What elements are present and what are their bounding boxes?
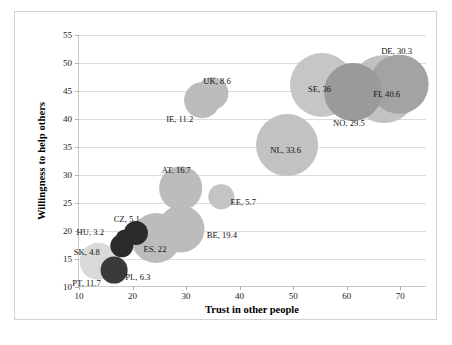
y-tick-mark-45 bbox=[75, 91, 79, 92]
data-label-no: NO, 29.5 bbox=[333, 119, 365, 128]
y-tick-mark-40 bbox=[75, 119, 79, 120]
y-tick-label-20: 20 bbox=[63, 226, 72, 236]
x-tick-label-70: 70 bbox=[396, 291, 405, 301]
y-tick-mark-55 bbox=[75, 35, 79, 36]
data-label-pl: PL, 6.3 bbox=[125, 273, 150, 282]
data-label-ee: EE, 5.7 bbox=[230, 198, 256, 207]
x-tick-mark-30 bbox=[186, 286, 187, 290]
x-tick-mark-50 bbox=[293, 286, 294, 290]
y-axis-title: Willingness to help others bbox=[33, 35, 49, 287]
y-tick-mark-35 bbox=[75, 147, 79, 148]
data-label-ie: IE, 11.2 bbox=[166, 115, 193, 124]
data-label-es: ES, 22 bbox=[144, 245, 167, 254]
x-tick-mark-40 bbox=[240, 286, 241, 290]
x-tick-label-30: 30 bbox=[182, 291, 191, 301]
gridline-y-30 bbox=[79, 175, 426, 176]
data-label-se: SE, 36 bbox=[308, 85, 331, 94]
y-tick-label-30: 30 bbox=[63, 170, 72, 180]
x-tick-label-10: 10 bbox=[75, 291, 84, 301]
x-tick-label-60: 60 bbox=[342, 291, 351, 301]
y-tick-label-45: 45 bbox=[63, 86, 72, 96]
plot-area: 10152025303540455055 10203040506070 PT, … bbox=[78, 35, 426, 287]
y-tick-mark-30 bbox=[75, 175, 79, 176]
data-label-nl: NL, 33.6 bbox=[270, 146, 301, 155]
gridline-y-35 bbox=[79, 147, 426, 148]
y-tick-label-15: 15 bbox=[63, 254, 72, 264]
x-tick-mark-20 bbox=[133, 286, 134, 290]
bubble-pl[interactable] bbox=[101, 257, 128, 284]
data-label-at: AT, 16.7 bbox=[162, 166, 191, 175]
y-tick-label-10: 10 bbox=[63, 282, 72, 292]
gridline-y-55 bbox=[79, 35, 426, 36]
data-label-de: DE, 30.3 bbox=[381, 47, 412, 56]
x-tick-label-20: 20 bbox=[128, 291, 137, 301]
y-tick-label-35: 35 bbox=[63, 142, 72, 152]
y-tick-label-50: 50 bbox=[63, 58, 72, 68]
y-tick-label-55: 55 bbox=[63, 30, 72, 40]
data-label-uk: UK, 8.6 bbox=[203, 77, 230, 86]
y-tick-mark-25 bbox=[75, 203, 79, 204]
x-tick-label-50: 50 bbox=[289, 291, 298, 301]
x-axis-title: Trust in other people bbox=[78, 304, 426, 315]
y-tick-mark-15 bbox=[75, 259, 79, 260]
data-label-cz: CZ, 5.1 bbox=[114, 215, 140, 224]
figure-frame: Willingness to help others Trust in othe… bbox=[14, 11, 437, 320]
x-tick-mark-70 bbox=[400, 286, 401, 290]
bubble-hu[interactable] bbox=[115, 229, 134, 248]
x-tick-label-40: 40 bbox=[235, 291, 244, 301]
data-label-fi: FI, 40.6 bbox=[373, 90, 400, 99]
y-tick-label-40: 40 bbox=[63, 114, 72, 124]
data-label-pt: PT, 11.7 bbox=[72, 279, 100, 288]
data-label-be: BE, 19.4 bbox=[207, 231, 237, 240]
y-tick-label-25: 25 bbox=[63, 198, 72, 208]
data-label-sk: SK, 4.8 bbox=[74, 248, 100, 257]
y-tick-mark-50 bbox=[75, 63, 79, 64]
gridline-y-15 bbox=[79, 259, 426, 260]
x-tick-mark-60 bbox=[347, 286, 348, 290]
data-label-hu: HU, 3.2 bbox=[77, 228, 104, 237]
